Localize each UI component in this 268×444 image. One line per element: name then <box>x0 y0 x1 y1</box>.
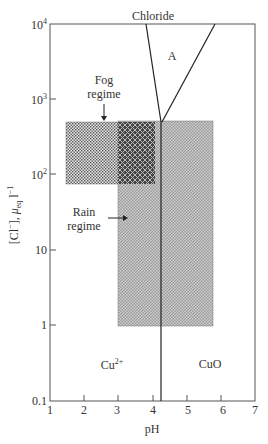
overlap-region <box>118 122 155 184</box>
svg-text:0.1: 0.1 <box>32 394 47 408</box>
svg-text:102: 102 <box>31 167 47 182</box>
chloride-left-boundary <box>146 24 161 122</box>
cuo-label: CuO <box>199 357 222 371</box>
rain-label-1: Rain <box>73 205 96 219</box>
chloride-label: Chloride <box>132 9 174 23</box>
chloride-right-boundary <box>162 24 215 122</box>
region-a-label: A <box>168 49 177 63</box>
svg-text:10: 10 <box>35 243 47 257</box>
chart: 104 103 102 10 1 0.1 1 2 3 4 5 6 7 pH [C… <box>0 0 268 444</box>
svg-text:7: 7 <box>252 403 258 417</box>
x-axis <box>84 395 221 401</box>
fog-arrowhead <box>101 116 107 121</box>
svg-text:6: 6 <box>220 403 226 417</box>
y-tick-labels: 104 103 102 10 1 0.1 <box>31 17 47 408</box>
x-tick-labels: 1 2 3 4 5 6 7 <box>47 403 258 417</box>
chart-svg: 104 103 102 10 1 0.1 1 2 3 4 5 6 7 pH [C… <box>0 0 268 444</box>
rain-label-2: regime <box>67 219 100 233</box>
fog-regime-region <box>66 122 118 184</box>
svg-text:103: 103 <box>31 92 47 107</box>
fog-label-2: regime <box>87 87 120 101</box>
svg-text:2: 2 <box>81 403 87 417</box>
svg-text:4: 4 <box>150 403 156 417</box>
x-axis-label: pH <box>145 422 160 436</box>
svg-text:1: 1 <box>41 318 47 332</box>
svg-text:104: 104 <box>31 17 47 32</box>
svg-text:1: 1 <box>47 403 53 417</box>
fog-label-1: Fog <box>95 73 114 87</box>
y-axis <box>50 99 56 325</box>
svg-text:5: 5 <box>185 403 191 417</box>
y-axis-label: [Cl−], μeq l−1 <box>6 186 23 244</box>
cu2-label: Cu2+ <box>101 357 124 372</box>
svg-text:3: 3 <box>114 403 120 417</box>
